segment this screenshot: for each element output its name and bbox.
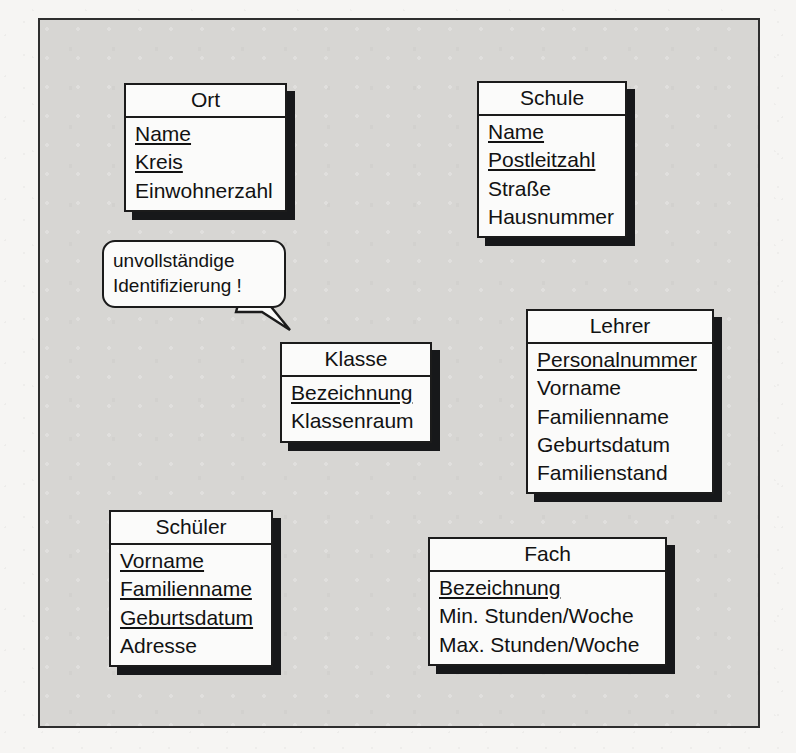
- callout-line: Identifizierung !: [113, 274, 286, 299]
- annotation-callout[interactable]: unvollständige Identifizierung !: [102, 240, 286, 308]
- uml-class-name: Schüler: [111, 512, 271, 545]
- uml-attribute: Max. Stunden/Woche: [430, 631, 665, 659]
- callout-text: unvollständige Identifizierung !: [102, 240, 286, 308]
- uml-attribute: Straße: [479, 175, 625, 203]
- uml-class-lehrer[interactable]: Lehrer Personalnummer Vorname Familienna…: [526, 309, 714, 494]
- uml-class-name: Schule: [479, 83, 625, 116]
- uml-attribute: Einwohnerzahl: [126, 177, 285, 205]
- uml-attribute-list: Vorname Familienname Geburtsdatum Adress…: [111, 545, 271, 665]
- uml-attribute: Postleitzahl: [479, 146, 625, 174]
- uml-attribute: Name: [479, 118, 625, 146]
- uml-attribute: Klassenraum: [282, 407, 430, 435]
- uml-attribute: Familienname: [111, 575, 271, 603]
- uml-class-name: Ort: [126, 85, 285, 118]
- uml-attribute-list: Name Postleitzahl Straße Hausnummer: [479, 116, 625, 236]
- uml-attribute-list: Personalnummer Vorname Familienname Gebu…: [528, 344, 712, 492]
- diagram-canvas: Ort Name Kreis Einwohnerzahl Schule Name…: [38, 18, 760, 728]
- uml-attribute: Name: [126, 120, 285, 148]
- uml-attribute: Personalnummer: [528, 346, 712, 374]
- uml-attribute: Familienstand: [528, 459, 712, 487]
- uml-class-schueler[interactable]: Schüler Vorname Familienname Geburtsdatu…: [109, 510, 273, 667]
- uml-attribute: Min. Stunden/Woche: [430, 602, 665, 630]
- uml-class-name: Lehrer: [528, 311, 712, 344]
- uml-attribute-list: Bezeichnung Klassenraum: [282, 377, 430, 440]
- uml-class-name: Klasse: [282, 344, 430, 377]
- uml-attribute: Bezeichnung: [430, 574, 665, 602]
- uml-class-klasse[interactable]: Klasse Bezeichnung Klassenraum: [280, 342, 432, 443]
- uml-attribute-list: Bezeichnung Min. Stunden/Woche Max. Stun…: [430, 572, 665, 664]
- uml-attribute: Kreis: [126, 148, 285, 176]
- uml-attribute: Bezeichnung: [282, 379, 430, 407]
- uml-attribute: Adresse: [111, 632, 271, 660]
- uml-class-ort[interactable]: Ort Name Kreis Einwohnerzahl: [124, 83, 287, 212]
- callout-line: unvollständige: [113, 249, 286, 274]
- uml-class-fach[interactable]: Fach Bezeichnung Min. Stunden/Woche Max.…: [428, 537, 667, 666]
- uml-attribute: Vorname: [528, 374, 712, 402]
- uml-attribute-list: Name Kreis Einwohnerzahl: [126, 118, 285, 210]
- uml-attribute: Familienname: [528, 403, 712, 431]
- uml-class-name: Fach: [430, 539, 665, 572]
- uml-class-schule[interactable]: Schule Name Postleitzahl Straße Hausnumm…: [477, 81, 627, 238]
- uml-attribute: Geburtsdatum: [528, 431, 712, 459]
- uml-attribute: Geburtsdatum: [111, 604, 271, 632]
- uml-attribute: Hausnummer: [479, 203, 625, 231]
- uml-attribute: Vorname: [111, 547, 271, 575]
